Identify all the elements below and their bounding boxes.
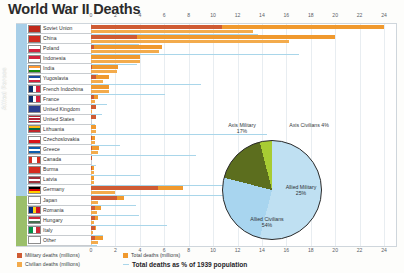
- bar-group: [91, 55, 396, 65]
- bar-civilian-deaths: [91, 141, 95, 144]
- bar-military-deaths: [91, 115, 96, 119]
- country-row[interactable]: Romania: [27, 206, 91, 216]
- country-row[interactable]: Japan: [27, 196, 91, 206]
- country-row[interactable]: Latvia: [27, 175, 91, 185]
- bar-civilian-deaths: [91, 110, 92, 113]
- flag-icon: [28, 85, 41, 93]
- bar-civilian-deaths: [91, 211, 97, 214]
- country-row[interactable]: France: [27, 95, 91, 105]
- chart-canvas: World War II Deaths Allied Forces Axis 0…: [0, 0, 404, 273]
- flag-icon: [28, 65, 41, 73]
- country-row[interactable]: Lithuania: [27, 125, 91, 135]
- bar-military-deaths: [91, 105, 96, 109]
- bar-civilian-deaths: [91, 191, 115, 194]
- country-row[interactable]: Poland: [27, 44, 91, 54]
- x-axis-top: 024681012141618202224: [91, 12, 396, 22]
- flag-icon: [28, 55, 41, 63]
- legend-item-military: Military deaths (millions): [17, 252, 80, 258]
- bar-civilian-deaths: [91, 60, 140, 63]
- bar-total-deaths: [91, 85, 109, 89]
- bar-military-deaths: [91, 216, 95, 220]
- bar-total-deaths: [91, 146, 99, 150]
- allied-band: [16, 24, 27, 196]
- bar-total-deaths: [91, 176, 94, 180]
- side-band: [16, 24, 27, 246]
- bar-total-deaths: [91, 55, 140, 59]
- bar-civilian-deaths: [91, 241, 98, 244]
- axis-band: [16, 196, 27, 246]
- country-name: Czechoslovakia: [43, 136, 79, 143]
- country-name: Lithuania: [43, 126, 64, 133]
- country-row[interactable]: Yugoslavia: [27, 74, 91, 84]
- bar-military-deaths: [91, 236, 95, 240]
- x-axis-tick: 14: [259, 12, 265, 18]
- country-row[interactable]: India: [27, 64, 91, 74]
- legend-item-civilian: Civilian deaths (millions): [17, 261, 80, 267]
- legend-item-total: Total deaths (millions): [123, 252, 180, 258]
- country-row[interactable]: Soviet Union: [27, 24, 91, 34]
- country-name: Canada: [43, 156, 61, 163]
- bar-group: [91, 95, 396, 105]
- bar-civilian-deaths: [91, 90, 109, 93]
- x-axis-tick: 6: [163, 12, 166, 18]
- country-row[interactable]: Indonesia: [27, 54, 91, 64]
- x-axis-tick: 4: [138, 12, 141, 18]
- country-name: Poland: [43, 45, 59, 52]
- country-row[interactable]: Germany: [27, 185, 91, 195]
- bar-civilian-deaths: [91, 50, 159, 53]
- bar-civilian-deaths: [91, 171, 94, 174]
- bar-total-deaths: [91, 45, 162, 49]
- country-name: Japan: [43, 197, 57, 204]
- country-row[interactable]: French Indochina: [27, 85, 91, 95]
- bar-group: [91, 25, 396, 35]
- country-name: Burma: [43, 166, 58, 173]
- country-row[interactable]: United States: [27, 115, 91, 125]
- flag-icon: [28, 75, 41, 83]
- flag-icon: [28, 35, 41, 43]
- country-name: Hungary: [43, 217, 63, 224]
- country-row[interactable]: China: [27, 34, 91, 44]
- country-row[interactable]: Hungary: [27, 216, 91, 226]
- bar-civilian-deaths: [91, 181, 94, 184]
- flag-icon: [28, 136, 41, 144]
- pie-label-allied-military: Allied Military25%: [278, 184, 324, 197]
- country-row[interactable]: Italy: [27, 226, 91, 236]
- bar-civilian-deaths: [91, 70, 117, 73]
- country-row[interactable]: United Kingdom: [27, 105, 91, 115]
- country-row[interactable]: Greece: [27, 145, 91, 155]
- country-name: Indonesia: [43, 55, 66, 62]
- flag-icon: [28, 196, 41, 204]
- country-row[interactable]: Other: [27, 236, 91, 246]
- bar-military-deaths: [91, 35, 137, 39]
- legend-label-percent: Total deaths as % of 1939 population: [132, 261, 247, 268]
- pie-chart: Axis Military17% Axis Civilians 4% Allie…: [222, 140, 326, 244]
- bar-military-deaths: [91, 25, 222, 29]
- legend-swatch-total: [123, 253, 128, 258]
- bar-civilian-deaths: [91, 100, 95, 103]
- bar-military-deaths: [91, 95, 94, 99]
- country-name: Germany: [43, 186, 64, 193]
- x-axis-tick: 12: [235, 12, 241, 18]
- country-row[interactable]: Czechoslovakia: [27, 135, 91, 145]
- flag-icon: [28, 216, 41, 224]
- bar-group: [91, 45, 396, 55]
- x-axis-tick: 20: [332, 12, 338, 18]
- country-name: French Indochina: [43, 86, 83, 93]
- country-row[interactable]: Burma: [27, 165, 91, 175]
- bar-civilian-deaths: [91, 231, 93, 234]
- country-name: Romania: [43, 207, 64, 214]
- country-name: Greece: [43, 146, 60, 153]
- bar-group: [91, 35, 396, 45]
- legend-swatch-percent: [123, 264, 129, 265]
- bar-military-deaths: [91, 75, 96, 79]
- x-axis-tick: 8: [187, 12, 190, 18]
- bar-civilian-deaths: [91, 221, 94, 224]
- bar-military-deaths: [91, 45, 94, 49]
- country-name: Soviet Union: [43, 25, 72, 32]
- legend-label-civilian: Civilian deaths (millions): [25, 261, 80, 267]
- pie-label-axis-military: Axis Military17%: [210, 122, 274, 135]
- bar-military-deaths: [91, 206, 95, 210]
- country-name: China: [43, 35, 57, 42]
- x-axis-tick: 18: [308, 12, 314, 18]
- country-row[interactable]: Canada: [27, 155, 91, 165]
